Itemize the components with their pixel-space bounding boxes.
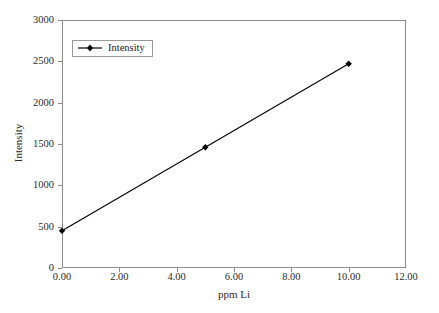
y-axis-tick-labels: 050010001500200025003000 xyxy=(0,20,54,268)
y-axis-tick-label: 3000 xyxy=(33,15,54,26)
y-axis-tick-label: 500 xyxy=(38,222,54,233)
x-axis-tick-label: 8.00 xyxy=(282,272,300,283)
y-axis-tick-mark xyxy=(58,227,62,228)
data-point-marker xyxy=(59,228,65,234)
x-axis-tick-label: 4.00 xyxy=(167,272,185,283)
data-series-layer xyxy=(62,20,406,268)
x-axis-tick-label: 2.00 xyxy=(110,272,128,283)
y-axis-tick-label: 1000 xyxy=(33,180,54,191)
x-axis-tick-labels: 0.002.004.006.008.0010.0012.00 xyxy=(62,272,406,286)
y-axis-tick-label: 1500 xyxy=(33,139,54,150)
data-point-marker xyxy=(202,144,208,150)
y-axis-tick-mark xyxy=(58,144,62,145)
y-axis-title: Intensity xyxy=(12,93,24,193)
legend[interactable]: Intensity xyxy=(72,40,153,57)
y-axis-tick-mark xyxy=(58,185,62,186)
x-axis-tick-label: 6.00 xyxy=(225,272,243,283)
data-point-marker xyxy=(345,61,351,67)
y-axis-tick-mark xyxy=(58,20,62,21)
x-axis-tick-label: 10.00 xyxy=(337,272,361,283)
x-axis-tick-label: 12.00 xyxy=(394,272,418,283)
legend-label-intensity: Intensity xyxy=(108,43,145,54)
chart-figure: 050010001500200025003000 Intensity Inten… xyxy=(0,0,439,313)
x-axis-tick-label: 0.00 xyxy=(53,272,71,283)
y-axis-tick-label: 2000 xyxy=(33,98,54,109)
plot-area: Intensity xyxy=(62,20,406,268)
y-axis-tick-mark xyxy=(58,268,62,269)
y-axis-tick-mark xyxy=(58,103,62,104)
legend-marker-icon xyxy=(77,43,103,53)
x-axis-title: ppm Li xyxy=(62,288,406,300)
y-axis-tick-mark xyxy=(58,61,62,62)
y-axis-tick-label: 2500 xyxy=(33,56,54,67)
